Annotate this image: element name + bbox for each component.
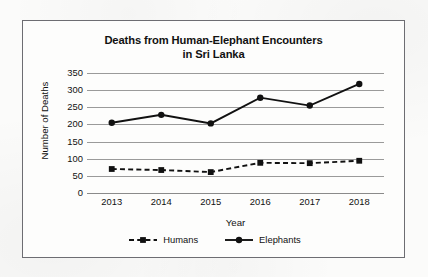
series-elephants bbox=[109, 81, 363, 127]
y-axis-title: Number of Deaths bbox=[39, 61, 50, 181]
legend-item-elephants[interactable]: Elephants bbox=[224, 235, 301, 245]
legend-label: Humans bbox=[163, 235, 198, 244]
data-point-circle bbox=[356, 81, 362, 87]
legend-label: Elephants bbox=[259, 235, 301, 244]
series-line bbox=[112, 161, 360, 172]
x-tick-label: 2013 bbox=[101, 197, 122, 206]
series-line bbox=[112, 84, 360, 123]
y-tick-label: 200 bbox=[49, 120, 83, 129]
y-tick-label: 50 bbox=[49, 171, 83, 180]
series-humans bbox=[109, 158, 362, 175]
plot-wrapper: Number of Deaths 350300250200150100500 2… bbox=[23, 21, 406, 259]
data-point-circle bbox=[109, 120, 115, 126]
data-point-circle bbox=[208, 120, 214, 126]
x-tick-label: 2017 bbox=[299, 197, 320, 206]
y-tick-label: 300 bbox=[49, 85, 83, 94]
scanned-page: Deaths from Human-Elephant Encounters in… bbox=[0, 0, 428, 277]
y-tick-label: 250 bbox=[49, 103, 83, 112]
data-point-square bbox=[208, 169, 214, 175]
chart-legend: HumansElephants bbox=[23, 235, 406, 245]
legend-marker-circle bbox=[236, 237, 242, 243]
x-axis-title: Year bbox=[87, 217, 384, 228]
y-tick-label: 150 bbox=[49, 137, 83, 146]
y-tick-label: 350 bbox=[49, 68, 83, 77]
data-point-square bbox=[307, 160, 313, 166]
y-axis-tick-labels: 350300250200150100500 bbox=[49, 73, 83, 193]
gridline bbox=[87, 193, 384, 194]
data-point-circle bbox=[158, 112, 164, 118]
data-point-circle bbox=[307, 102, 313, 108]
legend-key-dashed-square-icon bbox=[128, 235, 158, 245]
x-tick-label: 2018 bbox=[349, 197, 370, 206]
legend-key-solid-circle-icon bbox=[224, 235, 254, 245]
x-tick-label: 2014 bbox=[151, 197, 172, 206]
data-point-square bbox=[257, 160, 263, 166]
data-point-circle bbox=[257, 94, 263, 100]
y-tick-label: 0 bbox=[49, 188, 83, 197]
legend-item-humans[interactable]: Humans bbox=[128, 235, 198, 245]
data-point-square bbox=[158, 167, 164, 173]
data-point-square bbox=[356, 158, 362, 164]
plot-area bbox=[87, 73, 384, 193]
x-tick-label: 2016 bbox=[250, 197, 271, 206]
data-point-square bbox=[109, 166, 115, 172]
chart-figure: Deaths from Human-Elephant Encounters in… bbox=[22, 20, 405, 258]
series-layer bbox=[87, 73, 384, 193]
x-tick-label: 2015 bbox=[200, 197, 221, 206]
x-axis-tick-labels: 201320142015201620172018 bbox=[87, 197, 384, 211]
y-tick-label: 100 bbox=[49, 154, 83, 163]
legend-marker-square bbox=[140, 237, 146, 243]
